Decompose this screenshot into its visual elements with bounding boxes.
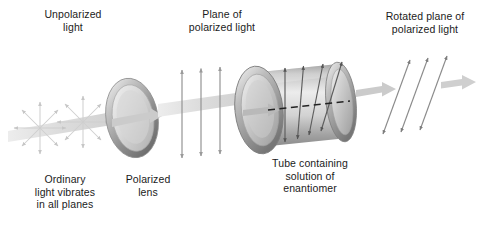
final-beam-arrow [441,75,476,90]
label-polarized-lens: Polarized lens [112,173,184,198]
beam-exiting-tube [356,82,396,97]
label-unpolarized-light: Unpolarized light [18,8,128,33]
label-tube-containing-solution: Tube containing solution of enantiomer [251,157,369,195]
rotated-plane-arrows [383,56,447,134]
plane-polarized-arrows [182,67,220,158]
label-rotated-plane-of-polarized-light: Rotated plane of polarized light [372,10,478,35]
incident-light-beam [8,112,112,142]
figure-canvas: Unpolarized light Plane of polarized lig… [0,0,482,226]
label-plane-of-polarized-light: Plane of polarized light [166,8,278,33]
label-ordinary-light-vibrates: Ordinary light vibrates in all planes [10,173,120,211]
